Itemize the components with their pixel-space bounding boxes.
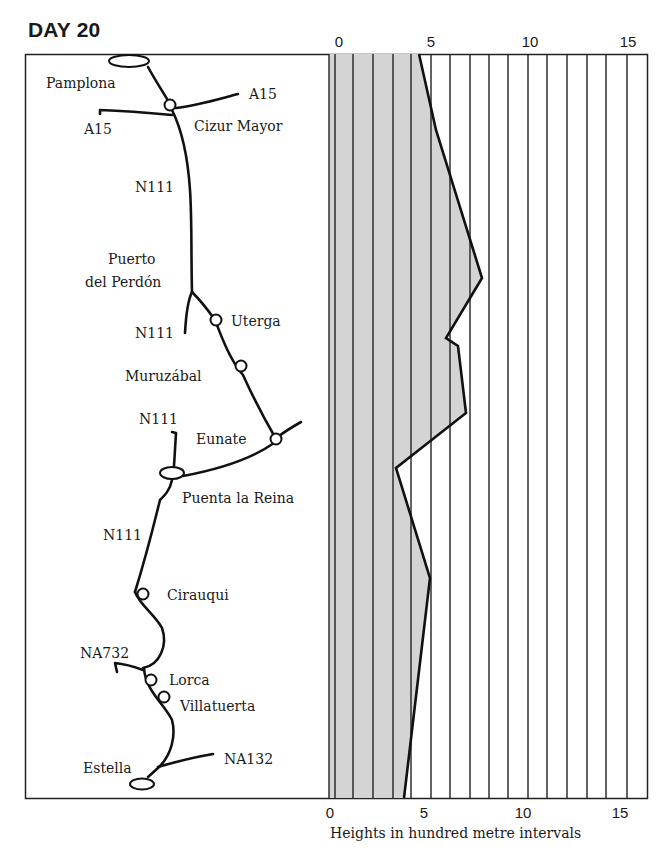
bottom-tick-15: 15 xyxy=(612,804,629,821)
top-tick-5: 5 xyxy=(427,33,435,50)
bottom-tick-5: 5 xyxy=(420,804,428,821)
elevation-area xyxy=(329,54,482,798)
bottom-tick-0: 0 xyxy=(326,804,334,821)
label-uterga: Uterga xyxy=(231,313,281,329)
top-tick-0: 0 xyxy=(335,33,343,50)
label-eunate: Eunate xyxy=(196,431,247,447)
label-villatuerta: Villatuerta xyxy=(179,698,255,714)
label-puerto: Puerto xyxy=(108,251,155,267)
map-labels: Pamplona A15 A15 Cizur Mayor N111 Puerto… xyxy=(46,75,294,776)
label-na732: NA732 xyxy=(80,645,129,661)
label-lorca: Lorca xyxy=(169,672,210,688)
estella-marker xyxy=(130,779,154,790)
bottom-tick-10: 10 xyxy=(515,804,532,821)
label-estella: Estella xyxy=(83,760,132,776)
road-n111-branch xyxy=(185,292,192,333)
cizur-marker xyxy=(165,100,176,111)
label-n111-2: N111 xyxy=(135,325,174,341)
top-tick-15: 15 xyxy=(620,33,637,50)
label-na132: NA132 xyxy=(224,751,273,767)
road-eunate-east xyxy=(279,422,301,436)
label-del-perdon: del Perdón xyxy=(85,274,161,290)
road-na732 xyxy=(115,663,143,672)
puenta-marker xyxy=(160,467,184,479)
label-cirauqui: Cirauqui xyxy=(167,587,229,603)
top-axis-labels: 0 5 10 15 xyxy=(335,33,637,50)
top-tick-10: 10 xyxy=(522,33,539,50)
label-cizur-mayor: Cizur Mayor xyxy=(194,118,283,134)
uterga-marker xyxy=(211,315,222,326)
route-map xyxy=(100,67,301,777)
road-cirauqui-lorca xyxy=(135,592,164,668)
label-n111-1: N111 xyxy=(135,179,174,195)
label-pamplona: Pamplona xyxy=(46,75,116,91)
label-n111-3: N111 xyxy=(139,411,178,427)
road-a15-west xyxy=(100,110,172,115)
x-axis-title: Heights in hundred metre intervals xyxy=(330,825,581,841)
label-a15-east: A15 xyxy=(248,86,277,102)
road-a15-east xyxy=(176,94,238,108)
label-a15-west: A15 xyxy=(83,121,112,137)
road-pamplona-cizur xyxy=(148,67,170,104)
label-puenta-la-reina: Puenta la Reina xyxy=(182,490,294,506)
label-muruzabal: Muruzábal xyxy=(125,368,202,384)
route-figure: 0 5 10 15 0 5 10 15 Heights in hundred m… xyxy=(0,0,670,867)
lorca-marker xyxy=(146,675,157,686)
pamplona-marker xyxy=(109,55,149,67)
road-n111-puenta xyxy=(172,432,176,466)
villatuerta-marker xyxy=(159,692,170,703)
label-n111-4: N111 xyxy=(103,527,142,543)
road-n111-north xyxy=(172,110,192,292)
eunate-marker xyxy=(271,434,282,445)
road-eunate-puenta xyxy=(183,443,274,476)
bottom-axis-labels: 0 5 10 15 xyxy=(326,804,629,821)
muruzabal-marker xyxy=(236,361,247,372)
cirauqui-marker xyxy=(138,589,149,600)
